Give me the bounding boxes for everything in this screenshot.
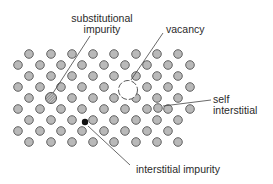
lattice-atom (89, 94, 98, 103)
lattice-atom (174, 72, 183, 81)
lattice-atom (100, 127, 109, 136)
lattice-atom (14, 127, 23, 136)
lattice-atom (68, 94, 77, 103)
lattice-atom (89, 50, 98, 59)
lattice-atom (121, 127, 130, 136)
lattice-atom (100, 61, 109, 70)
lattice-atom (68, 116, 77, 125)
lattice-atom (186, 105, 195, 114)
lattice-atom (47, 116, 56, 125)
lattice-atom (132, 50, 141, 59)
self-label-line2: interstitial (213, 105, 257, 116)
lattice-atom (36, 127, 45, 136)
lattice-atom (78, 127, 87, 136)
substitutional-impurity-atom (46, 93, 57, 104)
self-interstitial-atom (154, 104, 163, 113)
substitutional-impurity-label: substitutional impurity (62, 13, 142, 35)
interstitial-impurity-label: interstitial impurity (136, 164, 220, 175)
lattice-atom (100, 105, 109, 114)
lattice-atom (110, 94, 119, 103)
lattice-atom (153, 138, 162, 147)
lattice-atom (153, 116, 162, 125)
substitutional-label-line2: impurity (62, 24, 142, 35)
lattice-atom (25, 138, 34, 147)
lattice-atom (110, 116, 119, 125)
lattice-atom (132, 116, 141, 125)
lattice-atom (143, 127, 152, 136)
lattice-atom (78, 83, 87, 92)
lattice-atom (47, 50, 56, 59)
lattice-atom (36, 105, 45, 114)
self-interstitial-label: self interstitial (213, 94, 257, 116)
lattice-atom (25, 72, 34, 81)
lattice-atom (174, 116, 183, 125)
lattice-atom (36, 83, 45, 92)
interstitial-impurity-atom (82, 119, 88, 125)
lattice-atom (164, 61, 173, 70)
lattice-atom (68, 72, 77, 81)
lattice-atom (153, 50, 162, 59)
lattice-atom (121, 105, 130, 114)
lattice-atom (153, 94, 162, 103)
lattice-atom (89, 138, 98, 147)
lattice-atom (164, 127, 173, 136)
lattice-atom (57, 61, 66, 70)
lattice-atom (174, 50, 183, 59)
lattice-atom (57, 83, 66, 92)
lattice-atom (68, 138, 77, 147)
lattice-atom (89, 116, 98, 125)
lattice-atom (164, 83, 173, 92)
self-leader-line (163, 100, 211, 106)
lattice-atom (174, 94, 183, 103)
lattice-atom (47, 72, 56, 81)
lattice-atom (110, 50, 119, 59)
lattice-atom (57, 105, 66, 114)
lattice-atom (143, 61, 152, 70)
lattice-atoms (14, 50, 195, 147)
lattice-atom (47, 138, 56, 147)
lattice-atom (14, 61, 23, 70)
lattice-atom (121, 61, 130, 70)
lattice-atom (14, 83, 23, 92)
lattice-atom (68, 50, 77, 59)
lattice-atom (132, 138, 141, 147)
lattice-atom (57, 127, 66, 136)
vacancy-label: vacancy (166, 24, 205, 35)
lattice-atom (174, 138, 183, 147)
lattice-atom (25, 50, 34, 59)
lattice-atom (14, 105, 23, 114)
lattice-atom (153, 72, 162, 81)
vacancy-site (119, 81, 138, 100)
lattice-atom (78, 105, 87, 114)
lattice-atom (143, 83, 152, 92)
lattice-atom (89, 72, 98, 81)
lattice-atom (110, 72, 119, 81)
lattice-atom (25, 94, 34, 103)
lattice-atom (186, 83, 195, 92)
lattice-atom (100, 83, 109, 92)
lattice-atom (36, 61, 45, 70)
lattice-atom (110, 138, 119, 147)
lattice-atom (25, 116, 34, 125)
lattice-atom (186, 61, 195, 70)
lattice-atom (143, 105, 152, 114)
lattice-atom (78, 61, 87, 70)
